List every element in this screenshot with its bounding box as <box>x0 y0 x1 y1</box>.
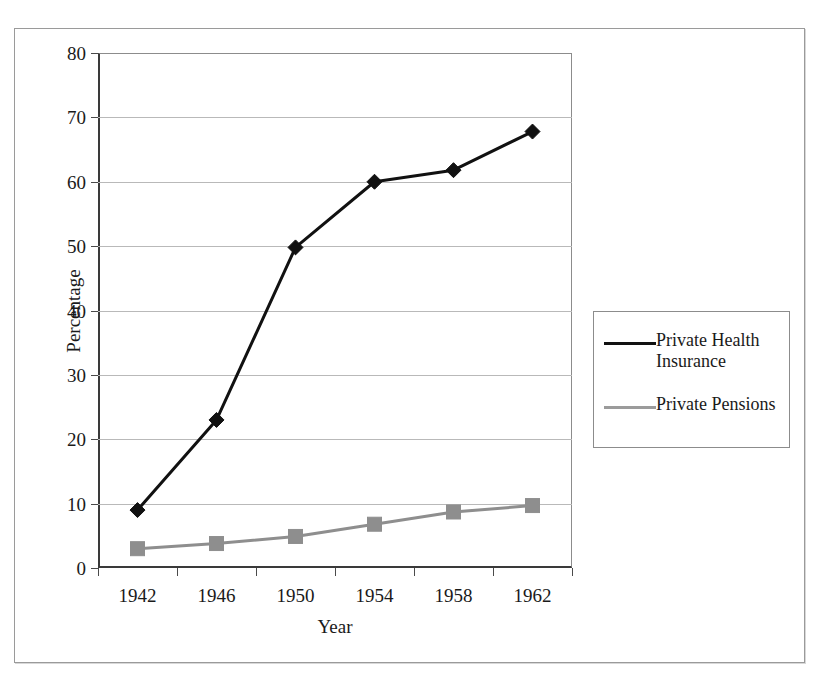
x-axis-tick-label: 1950 <box>277 586 315 605</box>
x-axis-tick-label: 1942 <box>119 586 157 605</box>
y-axis-tick <box>91 117 98 118</box>
x-axis-tick-label: 1962 <box>514 586 552 605</box>
y-axis-tick <box>91 246 98 247</box>
x-axis-tick-label: 1958 <box>435 586 473 605</box>
figure-container: 01020304050607080 1942194619501954195819… <box>0 0 820 679</box>
legend-entry-private-health-insurance: Private Health Insurance <box>604 330 784 372</box>
data-point-marker <box>210 537 224 551</box>
x-axis-tick <box>493 568 494 576</box>
x-axis-tick <box>335 568 336 576</box>
x-axis-tick <box>256 568 257 576</box>
series-private-pensions <box>131 499 540 556</box>
y-axis-tick <box>91 311 98 312</box>
x-axis-tick-label: 1946 <box>198 586 236 605</box>
y-axis-tick-label: 0 <box>77 559 87 578</box>
x-axis-tick <box>98 568 99 576</box>
y-axis-tick <box>91 53 98 54</box>
y-axis-tick-label: 20 <box>67 430 86 449</box>
chart-plot-area: 01020304050607080 1942194619501954195819… <box>98 53 572 568</box>
y-axis-title: Percentage <box>63 231 85 391</box>
y-axis-tick-label: 60 <box>67 172 86 191</box>
y-axis-tick <box>91 182 98 183</box>
chart-legend: Private Health Insurance Private Pension… <box>593 311 790 448</box>
y-axis-tick <box>91 504 98 505</box>
legend-key-diamond-icon <box>604 332 656 354</box>
data-point-marker <box>525 124 540 139</box>
legend-entry-private-pensions: Private Pensions <box>604 394 776 418</box>
legend-key-square-icon <box>604 396 656 418</box>
data-point-marker <box>368 517 382 531</box>
x-axis-tick <box>177 568 178 576</box>
y-axis-tick <box>91 568 98 569</box>
data-point-marker <box>447 505 461 519</box>
data-point-marker <box>446 163 461 178</box>
y-axis-tick-label: 70 <box>67 108 86 127</box>
legend-label-private-pensions: Private Pensions <box>656 394 776 415</box>
data-point-marker <box>131 542 145 556</box>
series-private-health-insurance <box>130 124 540 518</box>
x-axis-tick <box>572 568 573 576</box>
x-axis-tick-label: 1954 <box>356 586 394 605</box>
series-layer <box>98 53 572 568</box>
y-axis-tick-label: 10 <box>67 494 86 513</box>
y-axis-tick-label: 80 <box>67 44 86 63</box>
data-point-marker <box>289 529 303 543</box>
y-axis-tick <box>91 375 98 376</box>
x-axis-title: Year <box>98 616 572 638</box>
data-point-marker <box>526 499 540 513</box>
series-line <box>138 132 533 511</box>
series-line <box>138 506 533 549</box>
legend-label-private-health-insurance: Private Health Insurance <box>656 330 784 372</box>
x-axis-tick <box>414 568 415 576</box>
y-axis-tick <box>91 439 98 440</box>
